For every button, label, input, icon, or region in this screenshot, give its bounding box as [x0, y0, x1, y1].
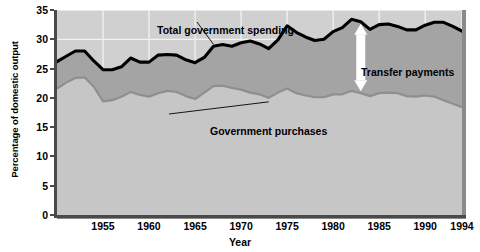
- x-tick-label: 1965: [170, 221, 220, 232]
- y-tick-mark: [50, 68, 54, 70]
- y-tick-label: 10: [14, 151, 48, 161]
- annotation-government-purchases: Government purchases: [210, 125, 327, 137]
- y-tick-label: 20: [14, 93, 48, 103]
- chart-svg: [57, 10, 462, 215]
- x-tick-label: 1980: [308, 221, 358, 232]
- x-tick-label: 1960: [124, 221, 174, 232]
- x-tick-label: 1975: [262, 221, 312, 232]
- y-tick-label: 25: [14, 64, 48, 74]
- y-tick-mark: [50, 9, 54, 11]
- annotation-total-government-spending: Total government spending: [157, 24, 294, 36]
- y-tick-label: 0: [14, 210, 48, 220]
- plot-area: Total government spending Transfer payme…: [57, 10, 462, 215]
- x-tick-label: 1985: [354, 221, 404, 232]
- y-tick-mark: [50, 38, 54, 40]
- y-tick-label: 30: [14, 34, 48, 44]
- x-axis-title: Year: [0, 236, 480, 248]
- chart-figure: Total government spending Transfer payme…: [0, 0, 480, 252]
- x-tick-label: 1955: [78, 221, 128, 232]
- y-tick-mark: [50, 97, 54, 99]
- y-tick-mark: [50, 155, 54, 157]
- y-tick-mark: [50, 214, 54, 216]
- y-tick-label: 15: [14, 122, 48, 132]
- y-tick-mark: [50, 126, 54, 128]
- x-tick-label: 1994: [437, 221, 480, 232]
- x-axis-spine: [54, 215, 466, 218]
- y-tick-label: 5: [14, 181, 48, 191]
- y-tick-mark: [50, 185, 54, 187]
- x-tick-label: 1970: [216, 221, 266, 232]
- annotation-transfer-payments: Transfer payments: [361, 66, 454, 78]
- y-tick-label: 35: [14, 5, 48, 15]
